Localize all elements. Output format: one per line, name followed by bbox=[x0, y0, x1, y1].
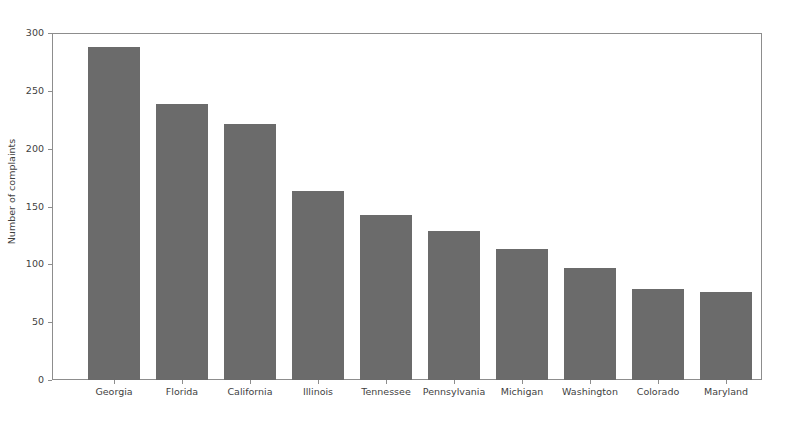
bar-chart-figure: Number of complaints 050100150200250300 … bbox=[0, 0, 785, 422]
x-tick-mark bbox=[182, 380, 183, 384]
x-tick-mark bbox=[590, 380, 591, 384]
y-tick-label: 300 bbox=[10, 28, 44, 38]
y-tick-label: 250 bbox=[10, 86, 44, 96]
x-tick-mark bbox=[250, 380, 251, 384]
x-tick-mark bbox=[658, 380, 659, 384]
x-tick-mark bbox=[114, 380, 115, 384]
x-tick-mark bbox=[318, 380, 319, 384]
x-tick-label: Colorado bbox=[637, 386, 679, 397]
x-tick-label: Washington bbox=[562, 386, 618, 397]
x-tick-mark bbox=[386, 380, 387, 384]
x-tick-label: Tennessee bbox=[361, 386, 411, 397]
x-tick-label: Pennsylvania bbox=[423, 386, 485, 397]
plot-area bbox=[52, 33, 762, 380]
x-tick-label: Michigan bbox=[501, 386, 544, 397]
y-tick-label: 100 bbox=[10, 259, 44, 269]
y-tick-mark bbox=[48, 380, 52, 381]
x-tick-label: Maryland bbox=[704, 386, 748, 397]
x-tick-label: Illinois bbox=[303, 386, 333, 397]
x-tick-mark bbox=[454, 380, 455, 384]
y-axis-ticks: 050100150200250300 bbox=[0, 0, 44, 422]
y-tick-label: 150 bbox=[10, 202, 44, 212]
x-tick-label: California bbox=[227, 386, 272, 397]
y-tick-label: 0 bbox=[10, 375, 44, 385]
x-tick-mark bbox=[726, 380, 727, 384]
x-tick-label: Florida bbox=[166, 386, 198, 397]
y-tick-label: 200 bbox=[10, 144, 44, 154]
x-tick-mark bbox=[522, 380, 523, 384]
y-tick-label: 50 bbox=[10, 317, 44, 327]
x-tick-label: Georgia bbox=[95, 386, 132, 397]
